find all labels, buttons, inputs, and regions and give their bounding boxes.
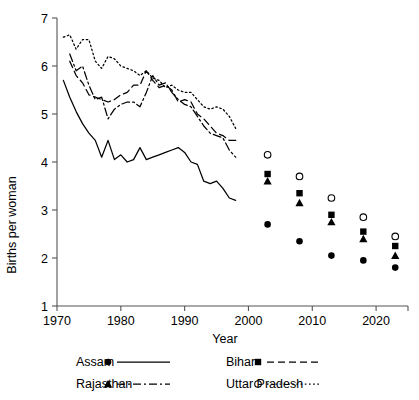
series-line-assam (63, 80, 235, 200)
point-uttar-pradesh-2018 (360, 214, 367, 221)
x-tick-label: 1980 (107, 314, 135, 328)
point-rajasthan-2018 (359, 235, 367, 242)
plot-series (63, 35, 235, 201)
legend-label: Uttar Pradesh (226, 377, 303, 391)
series-line-uttar-pradesh (63, 35, 235, 129)
y-tick-label: 2 (41, 252, 48, 266)
x-tick-label: 2020 (362, 314, 390, 328)
y-tick-label: 4 (41, 156, 48, 170)
point-uttar-pradesh-2023 (392, 233, 399, 240)
legend-marker-filled-square (255, 359, 261, 365)
x-tick-label: 2000 (235, 314, 263, 328)
point-assam-2023 (392, 264, 399, 271)
point-assam-2008 (296, 238, 303, 245)
legend-entry-uttar-pradesh: Uttar Pradesh (226, 377, 320, 391)
point-bihar-2018 (360, 228, 366, 234)
x-tick-label: 1990 (171, 314, 199, 328)
point-uttar-pradesh-2013 (328, 195, 335, 202)
point-uttar-pradesh-2008 (296, 173, 303, 180)
legend-entry-rajasthan: Rajasthan (76, 377, 170, 391)
point-assam-2013 (328, 252, 335, 259)
y-tick-label: 6 (41, 60, 48, 74)
point-uttar-pradesh-2003 (264, 152, 271, 159)
point-rajasthan-2013 (327, 218, 335, 225)
legend-label: Assam (76, 355, 114, 369)
series-line-bihar (70, 61, 236, 140)
point-assam-2003 (264, 221, 271, 228)
legend-label: Bihar (226, 355, 255, 369)
legend-entry-bihar: Bihar (226, 355, 320, 369)
point-bihar-2008 (296, 190, 302, 196)
y-tick-label: 5 (41, 108, 48, 122)
y-tick-label: 3 (41, 204, 48, 218)
births-per-woman-line-chart: Births per woman Year 123456719701980199… (0, 0, 419, 400)
point-rajasthan-2008 (295, 199, 303, 206)
point-rajasthan-2003 (264, 177, 272, 184)
y-tick-label: 1 (41, 300, 48, 314)
point-bihar-2023 (392, 243, 398, 249)
point-assam-2018 (360, 257, 367, 264)
x-axis-title: Year (212, 332, 237, 346)
chart-legend: AssamBiharRajasthanUttar Pradesh (76, 355, 320, 391)
y-tick-label: 7 (41, 12, 48, 26)
legend-entry-assam: Assam (76, 355, 170, 369)
point-bihar-2013 (328, 212, 334, 218)
plot-scatter-points (264, 152, 400, 271)
series-line-rajasthan (70, 54, 236, 157)
point-rajasthan-2023 (391, 252, 399, 259)
point-bihar-2003 (264, 171, 270, 177)
x-tick-label: 2010 (298, 314, 326, 328)
chart-figure: Births per woman Year 123456719701980199… (0, 0, 419, 400)
x-tick-label: 1970 (43, 314, 71, 328)
legend-label: Rajasthan (76, 377, 132, 391)
axis-tick-labels: 1234567197019801990200020102020 (41, 12, 390, 329)
y-axis-title: Births per woman (5, 176, 19, 273)
